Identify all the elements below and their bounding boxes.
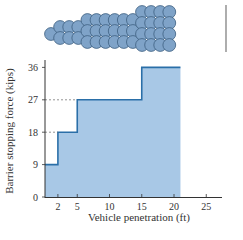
x-axis-title: Vehicle penetration (ft) bbox=[88, 211, 190, 224]
plot-area bbox=[45, 67, 180, 197]
x-tick-label: 5 bbox=[75, 201, 80, 212]
step-chart: 09182736 2510152025 Vehicle penetration … bbox=[0, 0, 243, 240]
y-tick-label: 18 bbox=[28, 127, 38, 138]
x-tick-label: 25 bbox=[201, 201, 211, 212]
y-tick-label: 27 bbox=[28, 94, 38, 105]
x-tick-label: 2 bbox=[55, 201, 60, 212]
y-ticks: 09182736 bbox=[28, 62, 45, 203]
y-tick-label: 9 bbox=[33, 159, 38, 170]
y-axis-title: Barrier stopping force (kips) bbox=[3, 68, 16, 194]
y-tick-label: 36 bbox=[28, 62, 38, 73]
y-tick-label: 0 bbox=[33, 192, 38, 203]
